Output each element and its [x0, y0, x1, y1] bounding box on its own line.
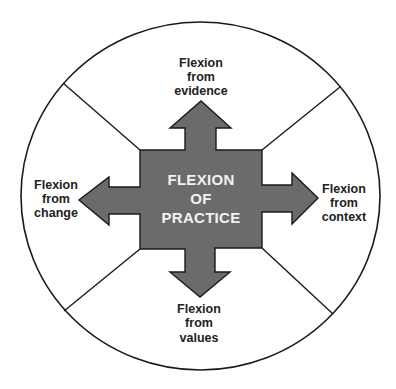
label-context-line-2: from — [330, 196, 358, 210]
flexion-diagram: FLEXION OF PRACTICE Flexion from evidenc… — [0, 0, 396, 389]
center-label-line-3: PRACTICE — [161, 209, 240, 226]
label-evidence-line-2: from — [187, 70, 215, 84]
label-values-line-3: values — [180, 331, 219, 345]
center-label-line-1: FLEXION — [167, 171, 234, 188]
label-change-line-1: Flexion — [34, 178, 78, 192]
center-label-line-2: OF — [190, 190, 211, 207]
label-evidence-line-1: Flexion — [179, 56, 223, 70]
label-values-line-1: Flexion — [177, 302, 221, 316]
label-context-line-3: context — [322, 210, 367, 224]
label-values-line-2: from — [185, 316, 213, 330]
label-change-line-2: from — [42, 192, 70, 206]
label-evidence-line-3: evidence — [174, 84, 228, 98]
label-context-line-1: Flexion — [322, 182, 366, 196]
label-change-line-3: change — [34, 206, 78, 220]
